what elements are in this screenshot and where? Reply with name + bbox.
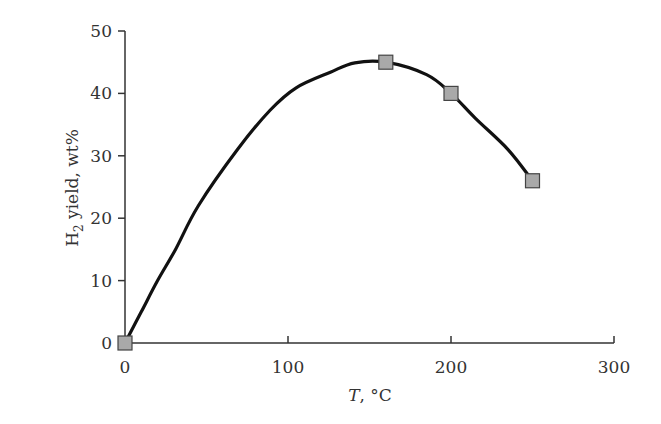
y-tick-label: 30 [90, 146, 112, 166]
y-axis-label-subscript: 2 [72, 224, 86, 232]
x-tick-label: 200 [435, 357, 467, 377]
chart: 01020304050 0100200300 H2 yield, wt% T, … [0, 0, 661, 424]
y-axis: 01020304050 [90, 21, 125, 353]
x-axis-label-unit: , °C [360, 385, 392, 405]
y-tick-label: 40 [90, 83, 112, 103]
x-axis: 0100200300 [120, 336, 631, 377]
square-marker [379, 55, 393, 69]
y-tick-label: 50 [90, 21, 112, 41]
data-markers [118, 55, 540, 350]
y-axis-label: H2 yield, wt% [62, 129, 86, 247]
fitted-curve [125, 61, 533, 343]
y-tick-label: 10 [90, 271, 112, 291]
square-marker [118, 336, 132, 350]
square-marker [444, 86, 458, 100]
x-tick-label: 0 [120, 357, 131, 377]
square-marker [526, 174, 540, 188]
y-axis-label-main: H [62, 232, 82, 247]
y-tick-label: 0 [101, 333, 112, 353]
x-tick-label: 300 [598, 357, 630, 377]
y-tick-label: 20 [90, 208, 112, 228]
y-axis-label-rest: yield, wt% [62, 129, 82, 224]
x-tick-label: 100 [272, 357, 304, 377]
x-axis-label: T, °C [348, 385, 392, 405]
